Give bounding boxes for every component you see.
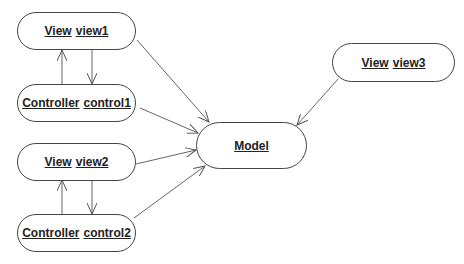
instance-label: control2 <box>84 226 131 240</box>
model-label: Model <box>234 139 269 153</box>
node-view1[interactable]: Viewview1 <box>17 12 136 50</box>
instance-label: view2 <box>76 155 109 169</box>
edge-view3-model <box>297 79 338 125</box>
class-label: Controller <box>22 226 79 240</box>
node-model[interactable]: Model <box>196 122 307 169</box>
edge-control2-model <box>134 166 205 218</box>
instance-label: view3 <box>393 56 426 70</box>
edge-view1-model <box>137 40 209 122</box>
class-label: View <box>362 56 389 70</box>
instance-label: view1 <box>76 24 109 38</box>
class-label: Controller <box>22 96 79 110</box>
class-label: View <box>45 155 72 169</box>
node-view3[interactable]: Viewview3 <box>332 43 455 82</box>
edge-view2-model <box>136 150 196 164</box>
node-control2[interactable]: Controllercontrol2 <box>17 214 136 252</box>
node-control1[interactable]: Controllercontrol1 <box>17 84 136 122</box>
edge-control1-model <box>140 108 198 133</box>
instance-label: control1 <box>84 96 131 110</box>
node-view2[interactable]: Viewview2 <box>17 143 136 181</box>
class-label: View <box>45 24 72 38</box>
